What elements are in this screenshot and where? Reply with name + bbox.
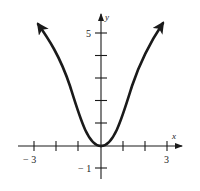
chart-canvas: x y − 3 3 5 − 1: [0, 0, 200, 191]
parabola-graph: x y − 3 3 5 − 1: [0, 0, 200, 191]
y-tick-label-min: − 1: [78, 163, 91, 174]
y-axis-label: y: [104, 12, 109, 22]
parabola-curve-left: [38, 24, 101, 146]
parabola-curve-right: [101, 23, 163, 146]
x-tick-label-min: − 3: [23, 154, 36, 165]
x-tick-label-max: 3: [164, 154, 169, 165]
x-axis-label: x: [171, 131, 176, 141]
y-tick-label-max: 5: [86, 28, 91, 39]
